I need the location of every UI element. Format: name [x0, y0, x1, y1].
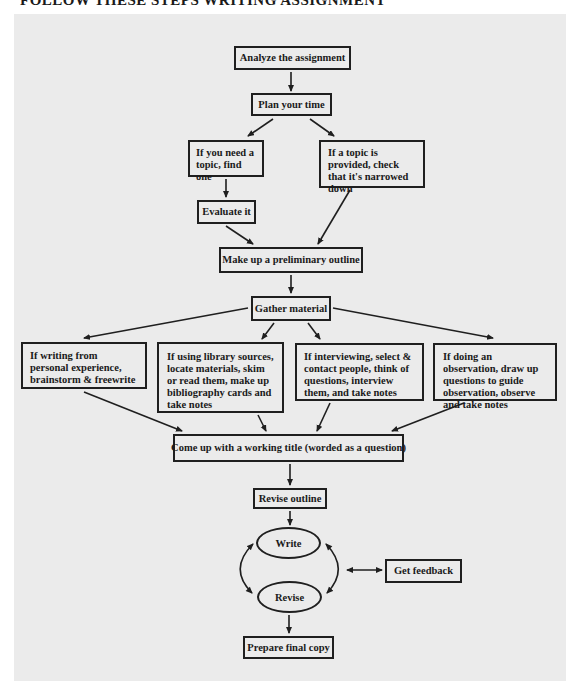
- step-gather-material: Gather material: [251, 296, 331, 321]
- step-topic-provided: If a topic is provided, check that it's …: [319, 140, 425, 188]
- step-library-sources: If using library sources, locate materia…: [157, 342, 284, 413]
- step-write: Write: [256, 527, 321, 559]
- step-interviewing: If interviewing, select & contact people…: [295, 343, 424, 401]
- step-preliminary-outline: Make up a preliminary outline: [219, 247, 363, 273]
- step-observation: If doing an observation, draw up questio…: [433, 343, 557, 401]
- step-working-title: Come up with a working title (worded as …: [173, 434, 404, 462]
- step-plan-time: Plan your time: [251, 93, 332, 116]
- step-evaluate: Evaluate it: [197, 200, 256, 224]
- step-final-copy: Prepare final copy: [243, 636, 334, 659]
- step-analyze-assignment: Analyze the assignment: [234, 46, 351, 70]
- step-get-feedback: Get feedback: [385, 559, 462, 583]
- step-revise: Revise: [257, 581, 322, 613]
- step-revise-outline: Revise outline: [253, 488, 327, 509]
- step-personal-experience: If writing from personal experience, bra…: [21, 342, 147, 389]
- step-need-topic: If you need a topic, find one: [188, 140, 264, 177]
